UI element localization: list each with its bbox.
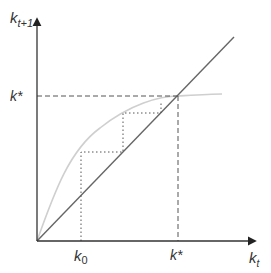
forty-five-degree-line (37, 37, 234, 241)
transition-curve (37, 94, 222, 241)
cobweb-staircase (81, 101, 161, 241)
diagram-canvas: kt+1 kt k* k* k0 (0, 0, 271, 273)
y-axis-label: kt+1 (10, 9, 33, 29)
steady-state-x-label: k* (170, 247, 183, 263)
steady-state-y-label: k* (10, 88, 23, 104)
initial-capital-label: k0 (74, 247, 88, 266)
x-axis-label: kt (249, 249, 261, 269)
